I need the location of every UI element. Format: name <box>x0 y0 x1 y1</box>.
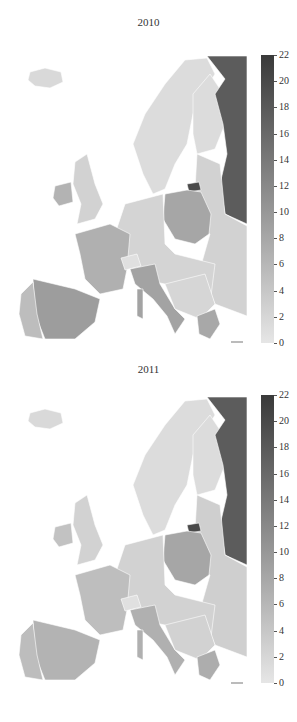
colorbar-tick: 12 <box>274 181 289 191</box>
region-spain <box>33 279 100 339</box>
colorbar-tick: 0 <box>274 678 284 688</box>
region-uk <box>73 154 103 224</box>
colorbar-tick: 10 <box>274 547 289 557</box>
region-poland <box>163 531 211 585</box>
region-ireland <box>53 182 73 206</box>
colorbar-tick: 2 <box>274 312 284 322</box>
colorbar-tick: 14 <box>274 495 289 505</box>
colorbar-tick: 4 <box>274 626 284 636</box>
colorbar-tick: 0 <box>274 338 284 348</box>
colorbar-tick: 22 <box>274 50 289 60</box>
colorbar-tick: 18 <box>274 442 289 452</box>
choropleth-map <box>15 395 247 685</box>
colorbar-tick: 8 <box>274 573 284 583</box>
map-credit-mark <box>231 682 243 684</box>
colorbar <box>261 395 274 683</box>
colorbar-tick: 12 <box>274 521 289 531</box>
colorbar-tick: 10 <box>274 207 289 217</box>
colorbar-tick: 8 <box>274 233 284 243</box>
colorbar-tick: 20 <box>274 76 289 86</box>
colorbar-tick: 16 <box>274 469 289 479</box>
region-sardinia-corsica <box>137 630 143 660</box>
colorbar-tick: 2 <box>274 652 284 662</box>
region-ireland <box>53 523 73 547</box>
colorbar-tick: 22 <box>274 390 289 400</box>
map-panel-2011: 2011 22 20 18 16 14 12 <box>0 360 297 722</box>
region-iceland <box>28 409 63 429</box>
colorbar-tick: 6 <box>274 259 284 269</box>
map-title: 2010 <box>0 16 297 28</box>
colorbar-tick: 14 <box>274 155 289 165</box>
map-credit-mark <box>231 341 243 343</box>
map-panel-2010: 2010 22 20 18 16 14 12 <box>0 0 297 360</box>
colorbar-tick: 18 <box>274 102 289 112</box>
colorbar-tick: 16 <box>274 129 289 139</box>
colorbar <box>261 55 274 343</box>
map-title: 2011 <box>0 363 297 375</box>
colorbar-tick: 20 <box>274 416 289 426</box>
choropleth-map <box>15 54 247 344</box>
colorbar-tick: 6 <box>274 599 284 609</box>
colorbar-tick: 4 <box>274 286 284 296</box>
region-iceland <box>28 68 63 88</box>
region-uk <box>73 495 103 565</box>
region-sardinia-corsica <box>137 289 143 319</box>
region-spain <box>33 620 100 680</box>
region-poland <box>163 190 211 244</box>
